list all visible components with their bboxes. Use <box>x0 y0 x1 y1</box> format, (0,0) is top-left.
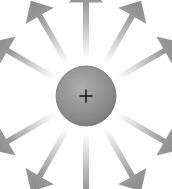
field-arrow-up-right-60 <box>106 28 172 94</box>
field-arrow-up-left-60 <box>0 28 66 94</box>
field-arrow-down-left-60 <box>0 98 66 164</box>
field-arrow-down-right-60 <box>106 98 172 164</box>
field-arrow-down <box>69 128 104 189</box>
field-arrow-up <box>69 0 104 64</box>
electric-field-figure: Electric field of a positive point charg… <box>0 0 172 189</box>
field-arrow-down-left-30 <box>17 116 84 189</box>
field-arrow-down-right-30 <box>88 116 155 189</box>
point-charge-group <box>56 66 116 126</box>
field-diagram-canvas <box>0 0 172 189</box>
